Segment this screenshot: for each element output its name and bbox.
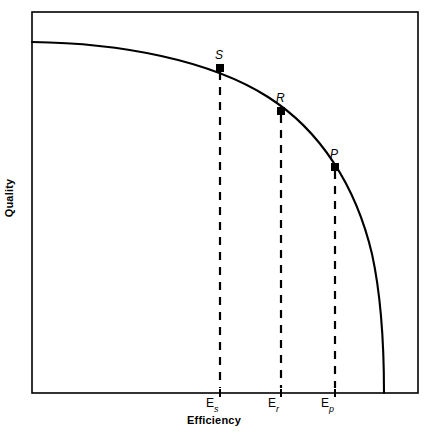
xtick-label-Ep: Ep (321, 396, 334, 412)
xtick-label-Es: Es (206, 396, 219, 412)
plot-frame (32, 12, 418, 393)
y-axis-title: Quality (3, 168, 15, 228)
xtick-label-Er-subscript: r (276, 404, 279, 414)
x-axis-title: Efficiency (187, 414, 241, 426)
data-point-marker-S (216, 64, 224, 72)
xtick-label-Er: Er (268, 396, 279, 412)
xtick-label-Ep-main: E (321, 396, 329, 410)
frontier-curve (32, 42, 384, 393)
quality-efficiency-frontier-figure: S R P Es Er Ep Quality Efficiency (0, 0, 434, 437)
xtick-label-Ep-subscript: p (329, 404, 334, 414)
data-point-label-R: R (276, 91, 285, 105)
data-point-label-P: P (330, 147, 338, 161)
data-point-marker-P (331, 163, 339, 171)
chart-canvas (0, 0, 434, 437)
data-point-marker-R (277, 107, 285, 115)
xtick-label-Es-subscript: s (214, 404, 219, 414)
xtick-label-Es-main: E (206, 396, 214, 410)
data-point-label-S: S (215, 48, 223, 62)
xtick-label-Er-main: E (268, 396, 276, 410)
